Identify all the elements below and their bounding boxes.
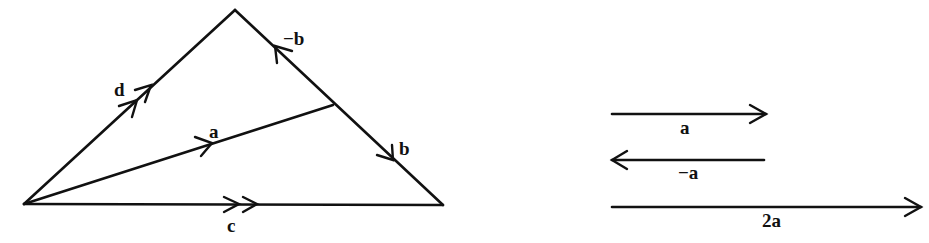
side-d <box>24 10 235 204</box>
side-c <box>24 204 443 205</box>
side-b <box>235 10 443 205</box>
vector-diagram: d a c −b b a −a 2a <box>0 0 929 243</box>
triangle-figure: d a c −b b <box>24 10 443 236</box>
label-right-neg-a: −a <box>678 162 699 183</box>
scalar-multiples-figure: a −a 2a <box>612 105 921 231</box>
diagram-svg: d a c −b b a −a 2a <box>0 0 929 243</box>
label-right-2a: 2a <box>762 210 782 231</box>
label-right-a: a <box>680 117 690 138</box>
arrowhead-b-icon <box>377 145 393 160</box>
label-d: d <box>114 79 125 100</box>
label-neg-b: −b <box>283 28 304 49</box>
label-a: a <box>209 121 219 142</box>
label-b: b <box>399 138 410 159</box>
label-c: c <box>227 215 235 236</box>
segment-a <box>24 105 333 204</box>
